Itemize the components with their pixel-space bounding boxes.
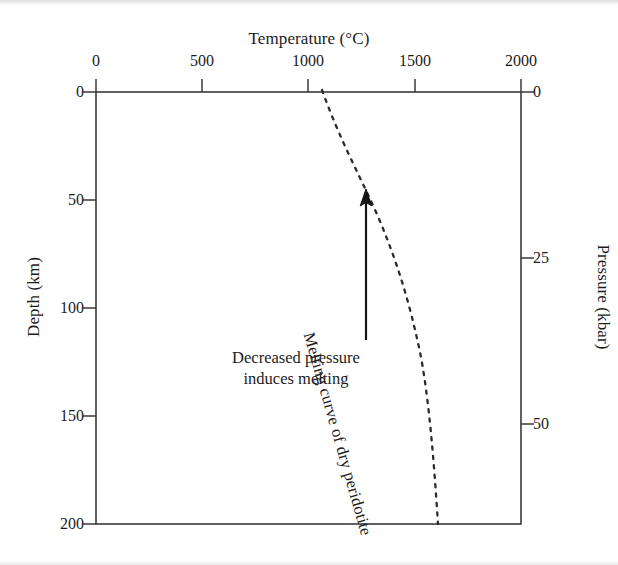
- x-tick-label-500: 500: [190, 52, 214, 70]
- y-tick-label-0: 0: [76, 83, 84, 101]
- decompression-arrow: [360, 189, 372, 340]
- y-tick-label-50: 50: [68, 191, 84, 209]
- y2-axis-title: Pressure (kbar): [593, 207, 613, 387]
- x-tick-label-1500: 1500: [399, 52, 431, 70]
- top-axis-ticks: [96, 79, 521, 92]
- x-tick-label-1000: 1000: [292, 52, 324, 70]
- y2-tick-label-50: 50: [533, 415, 549, 433]
- left-axis-ticks: [83, 92, 96, 524]
- y-tick-label-200: 200: [60, 515, 84, 533]
- figure-container: Temperature (°C) Depth (km) Pressure (kb…: [0, 0, 618, 565]
- decreased-pressure-annotation: Decreased pressure induces melting: [196, 347, 396, 389]
- plot-frame: [96, 92, 521, 524]
- y2-tick-label-0: 0: [533, 83, 541, 101]
- plot-area: [0, 0, 618, 565]
- x-tick-label-0: 0: [92, 52, 100, 70]
- decreased-pressure-line-2: induces melting: [196, 368, 396, 389]
- y-tick-label-100: 100: [60, 299, 84, 317]
- plot-border: [96, 92, 521, 524]
- x-tick-label-2000: 2000: [505, 52, 537, 70]
- y2-tick-label-25: 25: [533, 249, 549, 267]
- y-tick-label-150: 150: [60, 407, 84, 425]
- x-axis-title: Temperature (°C): [0, 29, 618, 49]
- decreased-pressure-line-1: Decreased pressure: [196, 347, 396, 368]
- y-axis-title: Depth (km): [24, 217, 44, 377]
